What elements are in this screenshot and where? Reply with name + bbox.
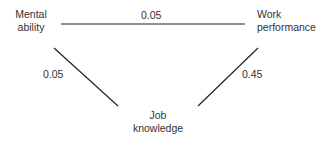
edge-label-mental-work: 0.05: [141, 9, 161, 21]
edge-mental-job: [54, 48, 118, 106]
edge-label-mental-job: 0.05: [43, 68, 63, 80]
node-label-line1: Mental: [10, 8, 52, 21]
node-mental-ability: Mental ability: [10, 8, 52, 34]
node-label-line2: knowledge: [126, 122, 190, 135]
node-label-line1: Job: [126, 109, 190, 122]
node-work-performance: Work performance: [257, 8, 316, 34]
node-label-line2: ability: [10, 21, 52, 34]
node-job-knowledge: Job knowledge: [126, 109, 190, 135]
node-label-line1: Work: [257, 8, 316, 21]
edge-label-job-work: 0.45: [242, 68, 262, 80]
node-label-line2: performance: [257, 21, 316, 34]
